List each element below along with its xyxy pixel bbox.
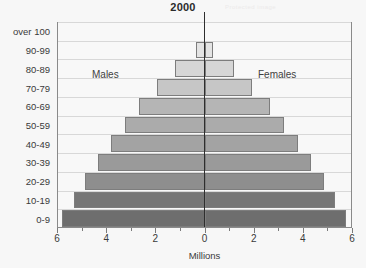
x-axis-tick-label: 6 [349,233,355,244]
x-tick-minor [82,228,83,231]
x-tick-minor [278,228,279,231]
bar-males-80-89 [175,60,205,77]
bar-females-30-39 [205,154,312,171]
x-axis-tick-label: 4 [103,233,109,244]
bar-females-10-19 [205,192,335,209]
watermark-text: Protected image [225,4,276,10]
y-axis-label-50-59: 50-59 [26,120,50,131]
x-tick-minor [327,228,328,231]
x-axis-tick-label: 0 [202,233,208,244]
bar-males-30-39 [98,154,205,171]
series-label-females: Females [258,69,296,80]
y-axis-label-80-89: 80-89 [26,63,50,74]
bar-males-50-59 [125,117,205,134]
x-tick-minor [229,228,230,231]
y-axis-label-10-19: 10-19 [26,194,50,205]
x-axis-tick-labels: 6420246 [57,233,352,247]
series-label-males: Males [92,69,119,80]
bar-males-70-79 [157,79,205,96]
bar-females-80-89 [205,60,235,77]
bar-females-0-9 [205,210,346,227]
x-axis-tick-label: 2 [153,233,159,244]
y-axis-label-90-99: 90-99 [26,45,50,56]
bar-males-60-69 [139,98,204,115]
x-axis-tick-label: 4 [300,233,306,244]
chart-title: 2000 [0,1,366,13]
plot-area [57,22,352,228]
y-axis-label-60-69: 60-69 [26,101,50,112]
x-axis-tick-label: 2 [251,233,257,244]
bar-females-40-49 [205,135,298,152]
bar-females-50-59 [205,117,285,134]
y-axis-label-20-29: 20-29 [26,176,50,187]
bar-females-70-79 [205,79,253,96]
x-axis-title: Millions [57,250,352,261]
bar-females-90-99 [205,42,214,59]
bar-males-10-19 [74,192,204,209]
x-tick-minor [180,228,181,231]
chart-root: 2000 Protected image 0-910-1920-2930-394… [0,0,366,268]
bar-males-0-9 [62,210,205,227]
bar-males-20-29 [85,173,204,190]
y-axis-label-40-49: 40-49 [26,138,50,149]
x-axis-tick-label: 6 [54,233,60,244]
y-axis-label-30-39: 30-39 [26,157,50,168]
y-axis-label-over-100: over 100 [13,26,50,37]
y-axis-label-0-9: 0-9 [36,213,50,224]
y-axis-label-70-79: 70-79 [26,82,50,93]
bar-males-40-49 [111,135,204,152]
bar-females-60-69 [205,98,270,115]
center-axis-line [204,12,205,227]
x-tick-minor [131,228,132,231]
bar-females-20-29 [205,173,324,190]
y-axis-labels: 0-910-1920-2930-3940-4950-5960-6970-7980… [0,22,54,228]
